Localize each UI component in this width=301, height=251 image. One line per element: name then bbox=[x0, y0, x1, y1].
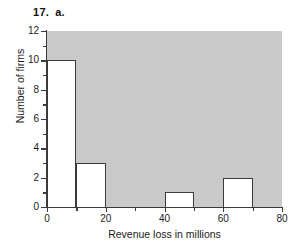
x-tick-label: 0 bbox=[32, 213, 62, 224]
figure-number: 17. bbox=[33, 6, 49, 18]
x-tick-minor bbox=[76, 207, 77, 211]
y-tick bbox=[41, 119, 46, 120]
y-tick bbox=[41, 90, 46, 91]
y-tick-label: 8 bbox=[33, 85, 39, 95]
y-tick bbox=[41, 207, 46, 208]
y-tick-minor bbox=[43, 134, 47, 135]
y-tick-label: 12 bbox=[28, 26, 39, 36]
y-tick-minor bbox=[43, 163, 47, 164]
y-tick-label: 10 bbox=[28, 55, 39, 65]
x-tick-minor bbox=[253, 207, 254, 211]
figure-label: 17.a. bbox=[33, 6, 65, 18]
x-tick bbox=[47, 207, 48, 212]
plot-area bbox=[47, 31, 282, 207]
histogram-bar bbox=[47, 60, 76, 207]
x-axis-title: Revenue loss in millions bbox=[47, 228, 282, 240]
x-tick-minor bbox=[135, 207, 136, 211]
y-tick-label: 0 bbox=[33, 202, 39, 212]
y-tick-minor bbox=[43, 75, 47, 76]
y-tick-minor bbox=[43, 46, 47, 47]
histogram-bar bbox=[76, 163, 105, 207]
y-tick bbox=[41, 60, 46, 61]
x-tick bbox=[223, 207, 224, 212]
y-axis-title: Number of firms bbox=[14, 16, 26, 156]
y-tick-label: 4 bbox=[33, 143, 39, 153]
y-tick-minor bbox=[43, 192, 47, 193]
histogram-figure: 17.a. 024681012 020406080 Number of firm… bbox=[0, 0, 301, 251]
histogram-bar bbox=[223, 178, 252, 207]
histogram-bar bbox=[165, 192, 194, 207]
x-tick-minor bbox=[194, 207, 195, 211]
y-tick bbox=[41, 31, 46, 32]
y-tick-label: 2 bbox=[33, 173, 39, 183]
x-tick-label: 60 bbox=[208, 213, 238, 224]
y-axis-line bbox=[46, 30, 47, 208]
x-tick-label: 40 bbox=[150, 213, 180, 224]
x-tick bbox=[282, 207, 283, 212]
x-tick-label: 80 bbox=[267, 213, 297, 224]
y-tick-label: 6 bbox=[33, 114, 39, 124]
y-tick-minor bbox=[43, 104, 47, 105]
figure-part: a. bbox=[55, 6, 65, 18]
x-tick bbox=[165, 207, 166, 212]
y-tick bbox=[41, 148, 46, 149]
x-tick-label: 20 bbox=[91, 213, 121, 224]
x-tick bbox=[106, 207, 107, 212]
y-tick bbox=[41, 178, 46, 179]
